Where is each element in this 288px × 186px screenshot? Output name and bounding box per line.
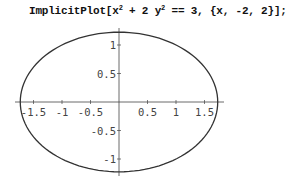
y-tick-label: -0.5 bbox=[91, 125, 116, 137]
y-tick-label: 1 bbox=[110, 39, 116, 51]
y-tick-label: -1 bbox=[103, 153, 116, 165]
y-tick-label: 0.5 bbox=[97, 68, 116, 80]
x-tick-label: 1.5 bbox=[195, 106, 214, 118]
x-tick-label: -0.5 bbox=[78, 106, 103, 118]
x-tick-label: 0.5 bbox=[138, 106, 157, 118]
x-tick-label: 1 bbox=[173, 106, 179, 118]
x-tick-label: -1.5 bbox=[21, 106, 46, 118]
implicit-plot: -1.5-1-0.50.511.510.5-0.5-1 bbox=[0, 0, 288, 186]
axes bbox=[15, 28, 224, 176]
x-tick-label: -1 bbox=[56, 106, 69, 118]
